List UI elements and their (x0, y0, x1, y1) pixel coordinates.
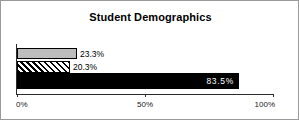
bar-value-label-1: 23.3% (77, 49, 104, 59)
x-axis-label-100: 100% (255, 100, 275, 109)
plot-area: 0% 50% 100% 23.3% 20.3% 83.5% (17, 44, 273, 94)
chart-title: Student Demographics (1, 11, 299, 24)
x-axis-label-50: 50% (137, 100, 153, 109)
x-axis-tick-0 (17, 94, 18, 97)
x-axis-tick-50 (145, 94, 146, 97)
chart-container: Student Demographics 0% 50% 100% 23.3% 2… (0, 0, 299, 120)
x-axis-tick-100 (273, 94, 274, 97)
bar-series-2 (17, 61, 70, 73)
bar-series-1 (17, 48, 77, 59)
x-axis-label-0: 0% (16, 100, 28, 109)
bar-value-label-2: 20.3% (70, 62, 97, 72)
bar-value-label-3: 83.5% (177, 76, 234, 86)
